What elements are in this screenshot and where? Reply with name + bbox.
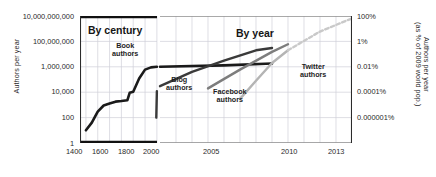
y-axis-right-title: Authors per year(as % of 2009 world pop.… xyxy=(414,14,431,114)
y-tick-right-label: 0.01% xyxy=(357,62,378,71)
series-label-line2: authors xyxy=(300,71,326,79)
chart-figure: Authors per year Authors per year(as % o… xyxy=(0,0,436,177)
y-axis-right-title-line2: (as % of 2009 world pop.) xyxy=(414,14,422,114)
series-label-blog-authors: Blog authors xyxy=(166,76,192,92)
y-tick-left-label: 10,000,000,000 xyxy=(0,12,74,21)
y-tick-left-label: 10,000 xyxy=(0,87,74,96)
x-tick-label: 1400 xyxy=(66,147,82,156)
y-tick-left-label: 1,000,000 xyxy=(0,62,74,71)
series-label-line2: authors xyxy=(213,96,247,104)
series-label-line2: authors xyxy=(166,84,192,92)
panel-title-by-century: By century xyxy=(88,24,142,36)
x-tick-label: 2010 xyxy=(281,147,297,156)
series-label-book-authors: Book authors xyxy=(112,42,138,58)
series-label-line2: authors xyxy=(112,50,138,58)
y-tick-left-label: 100 xyxy=(0,113,74,122)
x-tick-label: 2005 xyxy=(203,147,219,156)
y-tick-left-label: 1 xyxy=(0,139,74,148)
y-tick-right-label: 0.000001% xyxy=(357,113,394,122)
y-tick-right-label: 1% xyxy=(357,37,368,46)
y-tick-right-label: 0.0001% xyxy=(357,87,386,96)
series-label-twitter-authors: Twitter authors xyxy=(300,63,326,79)
series-line-blog-authors xyxy=(156,91,157,117)
x-tick-label: 2000 xyxy=(143,147,159,156)
x-tick-label: 1800 xyxy=(118,147,134,156)
y-tick-left-label: 100,000,000 xyxy=(0,37,74,46)
y-tick-right-label: 100% xyxy=(357,12,376,21)
y-axis-right-title-line1: Authors per year xyxy=(422,37,431,92)
series-label-facebook-authors: Facebook authors xyxy=(213,88,247,104)
x-tick-label: 1600 xyxy=(92,147,108,156)
panel-title-by-year: By year xyxy=(236,27,274,39)
x-tick-label: 2013 xyxy=(328,147,344,156)
